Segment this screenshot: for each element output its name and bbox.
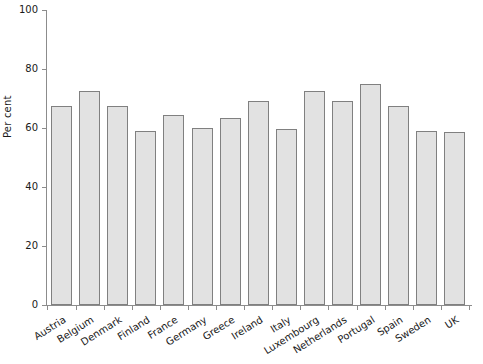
bar — [360, 84, 381, 305]
x-tick-mark — [357, 306, 358, 310]
bar — [416, 131, 437, 305]
bar — [192, 128, 213, 305]
y-tick-label: 60 — [10, 123, 38, 133]
x-tick-mark — [244, 306, 245, 310]
x-tick-mark — [76, 306, 77, 310]
x-tick-mark — [160, 306, 161, 310]
x-tick-mark — [328, 306, 329, 310]
bar — [163, 115, 184, 305]
y-tick-label: 0 — [10, 300, 38, 310]
bar-chart: Per cent 020406080100 AustriaBelgiumDenm… — [0, 0, 483, 364]
y-axis-line — [46, 10, 47, 305]
x-tick-mark — [47, 306, 48, 310]
bar — [135, 131, 156, 305]
x-tick-mark — [300, 306, 301, 310]
x-tick-mark — [188, 306, 189, 310]
bar — [304, 91, 325, 305]
bar — [79, 91, 100, 305]
x-tick-mark — [132, 306, 133, 310]
x-tick-mark — [469, 306, 470, 310]
x-tick-mark — [413, 306, 414, 310]
x-tick-mark — [441, 306, 442, 310]
x-tick-mark — [216, 306, 217, 310]
x-tick-mark — [104, 306, 105, 310]
bar — [388, 106, 409, 305]
bar — [332, 101, 353, 305]
y-tick-label: 100 — [10, 5, 38, 15]
bar — [276, 129, 297, 305]
bar — [107, 106, 128, 305]
y-tick-label: 20 — [10, 241, 38, 251]
bar — [444, 132, 465, 305]
x-tick-mark — [272, 306, 273, 310]
bar — [248, 101, 269, 305]
x-tick-mark — [385, 306, 386, 310]
x-axis-line — [46, 305, 472, 306]
bar — [51, 106, 72, 305]
bar — [220, 118, 241, 305]
y-tick-label: 80 — [10, 64, 38, 74]
y-tick-label: 40 — [10, 182, 38, 192]
